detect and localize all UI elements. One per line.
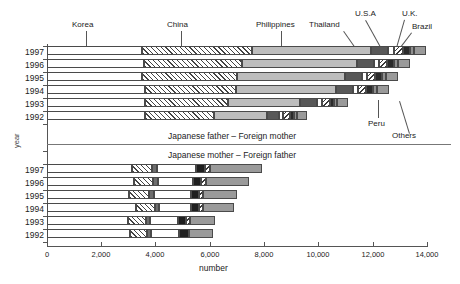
bar-segment-china: [130, 229, 147, 238]
x-axis-tick: [101, 242, 102, 246]
bar-segment-others: [190, 216, 215, 225]
bar-segment-others: [203, 190, 237, 199]
callout-label-korea: Korea: [72, 20, 93, 29]
bar-segment-others: [386, 72, 398, 81]
chart-root: Korea China Philippines Thailand U.S.A U…: [0, 0, 460, 284]
y-axis-title: year: [12, 133, 21, 148]
ytick-label-1996-bottom: 1996: [10, 178, 44, 188]
bar-segment-brazil: [366, 85, 373, 94]
bar-segment-china: [132, 164, 152, 173]
bar-segment-korea: [47, 111, 145, 120]
bar-segment-others: [189, 229, 213, 238]
bar-segment-korea: [47, 229, 130, 238]
bar-segment-brazil: [375, 72, 382, 81]
bar-segment-china: [128, 216, 146, 225]
bar-segment-uk: [191, 203, 199, 212]
callout-label-china: China: [167, 20, 188, 29]
xtick-label-14000: 14,000: [410, 250, 444, 259]
bar-segment-china: [144, 59, 242, 68]
ytick-label-1994-bottom: 1994: [10, 204, 44, 214]
bar-segment-uk: [196, 164, 205, 173]
ytick-label-1993-top: 1993: [10, 99, 44, 109]
bar-segment-korea: [47, 59, 144, 68]
bar-segment-others: [210, 164, 262, 173]
group-label-bottom: Japanese mother – Foreign father: [168, 150, 296, 160]
bar-segment-china: [136, 203, 155, 212]
x-axis-tick: [264, 242, 265, 246]
bar-segment-uk: [394, 46, 403, 55]
callout-label-uk: U.K.: [402, 9, 418, 18]
xtick-label-10000: 10,000: [301, 250, 335, 259]
group-label-top: Japanese father – Foreign mother: [168, 131, 296, 141]
bar-segment-philippines: [236, 85, 336, 94]
x-axis-spine: [47, 246, 428, 247]
ytick-label-1997-bottom: 1997: [10, 165, 44, 175]
y-axis-tick: [43, 151, 47, 152]
x-axis-tick: [318, 242, 319, 246]
bar-segment-usa: [158, 177, 193, 186]
ytick-label-1994-top: 1994: [10, 86, 44, 96]
callout-label-usa: U.S.A: [355, 9, 376, 18]
bar-segment-thailand: [371, 46, 388, 55]
bar-segment-philippines: [237, 72, 345, 81]
ytick-label-1992-bottom: 1992: [10, 230, 44, 240]
bar-segment-korea: [47, 72, 142, 81]
bar-segment-korea: [47, 164, 132, 173]
bar-segment-thailand: [345, 72, 362, 81]
bar-segment-usa: [151, 229, 179, 238]
panel-separator: [47, 144, 451, 145]
bar-segment-uk: [322, 98, 330, 107]
bar-segment-usa: [154, 190, 191, 199]
bar-segment-uk: [179, 229, 189, 238]
x-axis-tick: [155, 242, 156, 246]
bar-segment-others: [297, 111, 307, 120]
bar-segment-china: [145, 85, 236, 94]
x-axis-tick: [47, 242, 48, 246]
ytick-label-1997-top: 1997: [10, 47, 44, 57]
ytick-label-1992-top: 1992: [10, 112, 44, 122]
ytick-label-1993-bottom: 1993: [10, 217, 44, 227]
callout-label-peru: Peru: [368, 119, 385, 128]
xtick-label-12000: 12,000: [356, 250, 390, 259]
bar-segment-brazil: [403, 46, 410, 55]
x-axis-title: number: [199, 263, 228, 273]
bar-segment-china: [129, 190, 149, 199]
bar-segment-brazil: [387, 59, 394, 68]
bar-segment-china: [134, 177, 153, 186]
bar-segment-korea: [47, 216, 128, 225]
bar-segment-korea: [47, 177, 134, 186]
xtick-label-2000: 2,000: [86, 250, 116, 259]
bar-segment-korea: [47, 46, 142, 55]
bar-segment-korea: [47, 85, 145, 94]
bar-segment-others: [206, 177, 249, 186]
bar-segment-philippines: [242, 59, 357, 68]
bar-segment-usa: [150, 216, 178, 225]
bar-segment-china: [145, 98, 228, 107]
bar-segment-others: [203, 203, 234, 212]
bar-segment-others: [377, 85, 389, 94]
ytick-label-1995-top: 1995: [10, 73, 44, 83]
bar-segment-thailand: [336, 85, 353, 94]
bar-segment-philippines: [214, 111, 267, 120]
callout-label-others: Others: [392, 131, 416, 140]
bar-segment-korea: [47, 203, 136, 212]
bar-segment-uk: [178, 216, 186, 225]
x-axis-tick: [427, 242, 428, 246]
ytick-label-1995-bottom: 1995: [10, 191, 44, 201]
bar-segment-uk: [193, 177, 201, 186]
x-axis-tick: [210, 242, 211, 246]
bar-segment-uk: [379, 59, 387, 68]
bar-segment-others: [414, 46, 426, 55]
bar-segment-uk: [367, 72, 375, 81]
x-axis-tick: [373, 242, 374, 246]
bar-segment-korea: [47, 190, 129, 199]
xtick-label-0: 0: [32, 250, 62, 259]
leader-peru: [378, 100, 379, 118]
bar-segment-usa: [157, 164, 196, 173]
bar-segment-others: [398, 59, 410, 68]
xtick-label-8000: 8,000: [249, 250, 279, 259]
bar-segment-thailand: [300, 98, 317, 107]
bar-segment-china: [142, 46, 252, 55]
callout-label-brazil: Brazil: [412, 22, 432, 31]
bar-segment-thailand: [357, 59, 374, 68]
